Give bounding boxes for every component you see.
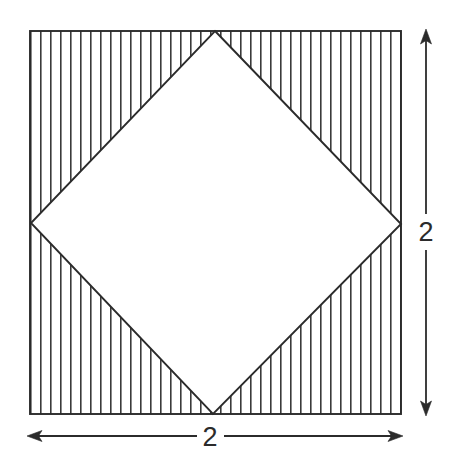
horizontal-dimension-label: 2 — [202, 422, 217, 452]
figure-canvas: 2 2 — [0, 0, 461, 470]
geometry-figure: 2 2 — [0, 0, 461, 470]
vertical-dimension-label: 2 — [418, 217, 433, 247]
